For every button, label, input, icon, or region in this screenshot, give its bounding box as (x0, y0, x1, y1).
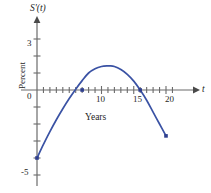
x-tick-label-20: 20 (165, 95, 174, 104)
x-tick-label-15: 15 (133, 95, 142, 104)
y-axis-variable-label: S'(t) (30, 4, 46, 14)
x-axis-variable-label: t (202, 85, 205, 95)
y-axis-arrow-icon (34, 16, 41, 23)
chart-container: S'(t) t Percent Years 3 0 -5 10 15 20 (0, 0, 211, 193)
x-axis-title: Years (85, 113, 106, 123)
y-tick-label-0: 0 (27, 92, 32, 101)
x-tick-label-10: 10 (96, 95, 105, 104)
y-tick-label-minus5: -5 (21, 168, 29, 177)
y-axis-title: Percent (18, 62, 27, 89)
y-tick-label-3: 3 (27, 39, 32, 48)
x-axis-ticks (43, 86, 172, 94)
x-axis-arrow-icon (193, 87, 200, 94)
